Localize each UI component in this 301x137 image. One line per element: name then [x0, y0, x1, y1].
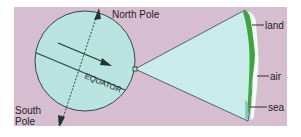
earth-layers-diagram: North Pole South Pole EQUATOR land air s…: [0, 0, 301, 137]
north-pole-label: North Pole: [112, 9, 160, 20]
globe: [35, 11, 135, 111]
south-pole-label-line1: South: [15, 105, 41, 116]
land-label: land: [265, 20, 284, 31]
sea-label: sea: [268, 102, 285, 113]
south-pole-label-line2: Pole: [15, 116, 35, 127]
air-label: air: [270, 71, 282, 82]
cone-tip-marker: [133, 67, 137, 71]
